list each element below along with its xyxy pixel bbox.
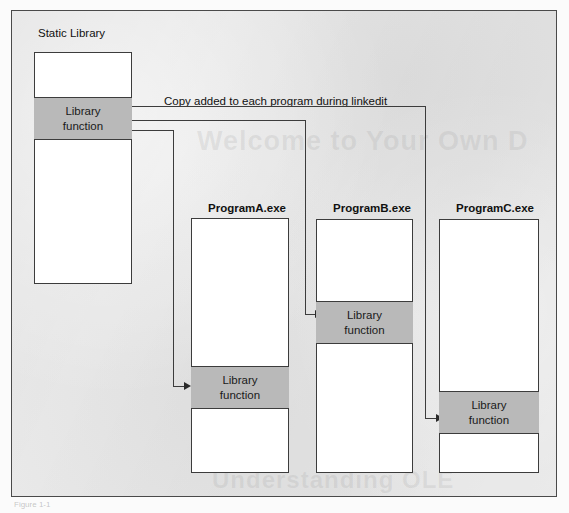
programb-function-line2: function [344,323,384,337]
programb-title: ProgramB.exe [333,202,411,214]
figure-frame: Welcome to Your Own D Understanding OLE … [11,10,557,497]
programa-title: ProgramA.exe [208,202,286,214]
programa-function-line2: function [220,388,260,402]
programb-function-line1: Library [347,308,382,322]
connector-c-horizontal-top [132,106,426,107]
programc-function-line1: Library [471,398,506,412]
programc-title: ProgramC.exe [456,202,534,214]
figure-page: Welcome to Your Own D Understanding OLE … [0,0,569,513]
ghost-text-top: Welcome to Your Own D [197,126,529,157]
programa-function-band: Library function [191,366,289,409]
connector-a-vertical [173,130,174,386]
static-library-function-band: Library function [34,97,132,140]
programb-box [316,219,413,473]
programc-box [439,219,539,473]
programc-function-band: Library function [439,391,539,434]
connector-b-vertical [305,120,306,314]
static-library-function-line1: Library [65,104,100,118]
static-library-box [34,52,132,284]
programa-function-line1: Library [222,373,257,387]
programb-function-band: Library function [316,301,413,344]
programc-function-line2: function [469,413,509,427]
connector-a-horizontal-top [132,130,174,131]
connector-c-vertical [425,106,426,418]
static-library-function-line2: function [63,119,103,133]
programa-box [191,218,289,473]
figure-caption-below: Figure 1-1 [14,500,50,509]
arrowhead-programa [184,382,191,390]
static-library-title: Static Library [38,27,105,39]
connector-b-horizontal-top [132,120,306,121]
